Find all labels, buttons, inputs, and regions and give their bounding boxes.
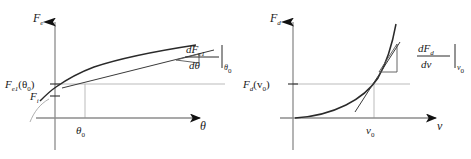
x-axis-label-left: θ <box>200 119 206 133</box>
figure-background <box>0 0 471 159</box>
x-axis-label-right: v <box>437 119 443 133</box>
linearization-figure: Fe θ Fe1(θ0) Fi θ0 dFe1 dθ θ0 Fd v Fd(v0… <box>0 0 471 159</box>
derivative-denominator-right: dv <box>421 58 432 70</box>
derivative-denominator-left: dθ <box>189 59 201 71</box>
